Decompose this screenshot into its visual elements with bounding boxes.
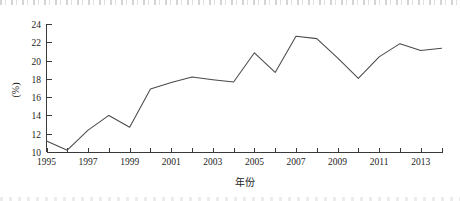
x-tick-label: 2013 (411, 157, 430, 167)
y-tick-label: 24 (32, 20, 42, 30)
y-axis-tick-labels: 1012141618202224 (32, 20, 42, 158)
x-axis: 1995199719992001200320052007200920112013 (37, 148, 443, 168)
x-tick-label: 2005 (245, 157, 264, 167)
x-tick-label: 2003 (203, 157, 222, 167)
y-tick-label: 18 (32, 75, 42, 85)
x-axis-tick-labels: 1995199719992001200320052007200920112013 (37, 157, 430, 167)
chart-page: 1012141618202224 19951997199920012003200… (0, 0, 460, 201)
y-tick-label: 14 (32, 111, 42, 121)
x-tick-label: 2011 (370, 157, 389, 167)
x-tick-label: 2001 (162, 157, 181, 167)
x-axis-ticks (48, 148, 443, 153)
y-axis-ticks (47, 25, 52, 153)
y-tick-label: 22 (32, 38, 42, 48)
line-chart: 1012141618202224 19951997199920012003200… (0, 0, 460, 201)
y-tick-label: 20 (32, 57, 42, 67)
y-axis: 1012141618202224 (32, 20, 52, 158)
x-tick-label: 1997 (79, 157, 98, 167)
y-tick-label: 16 (32, 93, 42, 103)
data-series-line (47, 36, 442, 150)
x-tick-label: 1995 (37, 157, 56, 167)
x-tick-label: 1999 (120, 157, 139, 167)
x-tick-label: 2007 (286, 157, 305, 167)
x-axis-title: 年份 (235, 176, 255, 188)
y-axis-title: (%) (10, 83, 22, 98)
x-tick-label: 2009 (328, 157, 347, 167)
y-tick-label: 12 (32, 130, 42, 140)
